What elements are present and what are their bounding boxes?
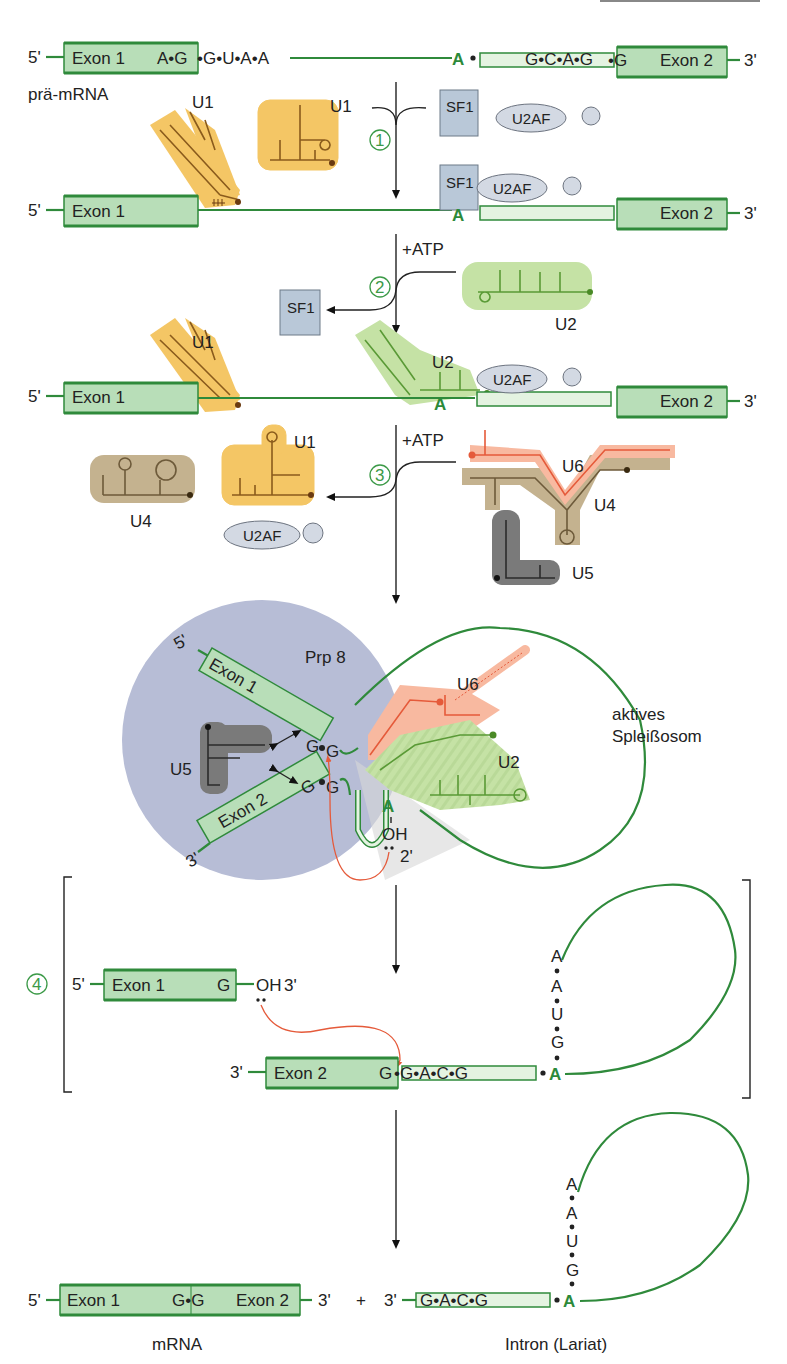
donor-seq-exon: A•G	[157, 49, 188, 68]
tri-snrnp-u4-u6-u5	[462, 430, 675, 585]
svg-text:U4: U4	[130, 512, 152, 531]
acceptor-junction: •G	[608, 51, 627, 70]
svg-text:Exon 2: Exon 2	[274, 1064, 327, 1083]
step-4: 4 5' Exon 1 G OH 3' 3' Exon 2 G •G•A•C•G…	[27, 877, 750, 1098]
svg-text:Exon 2: Exon 2	[236, 1291, 289, 1310]
svg-text:Exon 1: Exon 1	[72, 202, 125, 221]
svg-text:5': 5'	[72, 975, 85, 994]
step-3: +ATP 3 U4 U1 U2AF	[90, 425, 675, 600]
svg-text:U2: U2	[555, 315, 577, 334]
left-bracket	[64, 877, 72, 1092]
svg-text:G: G	[551, 1033, 564, 1052]
svg-text:U2: U2	[432, 353, 454, 372]
svg-text:A: A	[549, 1065, 561, 1084]
svg-text:U4: U4	[594, 496, 616, 515]
final-products: 5' Exon 1 G•G Exon 2 3' + 3' G•A•C•G A A…	[28, 1110, 748, 1354]
svg-text:1: 1	[375, 131, 384, 150]
svg-text:aktives: aktives	[612, 705, 665, 724]
u4-snrna-released	[90, 455, 195, 503]
svg-text:2': 2'	[400, 847, 413, 866]
svg-text:SF1: SF1	[446, 98, 474, 115]
active-spliceosome: Prp 8 5' Exon 1 G G Exon 2 3' G G U5	[122, 600, 702, 880]
nucleophilic-attack-arrow	[261, 1005, 400, 1065]
exon-1-label: Exon 1	[72, 49, 125, 68]
svg-text:G•G: G•G	[172, 1291, 204, 1310]
svg-text:U: U	[551, 1005, 563, 1024]
svg-text:A: A	[452, 206, 464, 225]
svg-text:A: A	[551, 947, 563, 966]
svg-text:U1: U1	[294, 433, 316, 452]
svg-text:A: A	[551, 977, 563, 996]
intron-lariat-loop	[562, 885, 735, 1074]
svg-text:Exon 1: Exon 1	[67, 1291, 120, 1310]
svg-text:U5: U5	[170, 760, 192, 779]
svg-text:OH: OH	[256, 976, 282, 995]
svg-text:G: G	[326, 778, 339, 797]
exon-2-label: Exon 2	[660, 51, 713, 70]
complex-e-row: 5' Exon 1 SF1 A U2AF Exon 2 3'	[28, 165, 757, 229]
svg-text:Prp 8: Prp 8	[305, 648, 346, 667]
svg-text:Exon 1: Exon 1	[112, 976, 165, 995]
svg-text:Spleißosom: Spleißosom	[612, 727, 702, 746]
svg-text:U2: U2	[498, 753, 520, 772]
svg-text:5': 5'	[28, 387, 41, 406]
svg-text:G: G	[217, 976, 230, 995]
svg-text:U2AF: U2AF	[512, 110, 550, 127]
svg-text:A: A	[566, 1175, 578, 1194]
svg-text:U: U	[566, 1232, 578, 1251]
mrna-label: mRNA	[152, 1335, 203, 1354]
svg-text:A: A	[566, 1204, 578, 1223]
svg-text:U2AF: U2AF	[493, 371, 531, 388]
pre-mrna-label: prä-mRNA	[28, 85, 109, 104]
u2-snrnp-bound	[355, 320, 490, 405]
svg-text:Exon 2: Exon 2	[660, 392, 713, 411]
svg-text:+ATP: +ATP	[402, 431, 444, 450]
u1-snrnp-free	[258, 100, 338, 170]
svg-text:G: G	[379, 1064, 392, 1083]
svg-text:5': 5'	[28, 201, 41, 220]
svg-text:Exon 2: Exon 2	[660, 204, 713, 223]
branch-point-a: A	[452, 50, 464, 69]
donor-seq-intron: •G•U•A•A	[197, 49, 270, 68]
svg-text:5': 5'	[28, 1291, 41, 1310]
svg-text:+ATP: +ATP	[402, 240, 444, 259]
svg-text:G: G	[566, 1261, 579, 1280]
complex-a-row: U1 U2 5' Exon 1 A U2AF Exon 2 3'	[28, 318, 757, 417]
u1-snrnp-bound	[150, 108, 241, 208]
u1-bound-label: U1	[192, 93, 214, 112]
u2-snrnp-free	[462, 262, 593, 310]
lariat-sequence: A A U G	[566, 1175, 579, 1286]
svg-text:3': 3'	[744, 392, 757, 411]
acceptor-seq: G•C•A•G	[525, 50, 593, 69]
svg-text:A: A	[563, 1292, 575, 1311]
svg-text:U5: U5	[572, 564, 594, 583]
three-prime-label: 3'	[744, 51, 757, 70]
svg-text:U6: U6	[457, 675, 479, 694]
svg-text:U6: U6	[562, 457, 584, 476]
step-2: +ATP 2 SF1 U2	[280, 234, 593, 335]
svg-text:4: 4	[32, 975, 41, 994]
svg-text:+: +	[356, 1291, 366, 1310]
five-prime-label: 5'	[28, 48, 41, 67]
svg-text:3': 3'	[384, 1291, 397, 1310]
svg-text:A: A	[434, 395, 446, 414]
svg-text:3': 3'	[230, 1063, 243, 1082]
lariat-sequence: A A U G	[551, 947, 564, 1060]
svg-text:2: 2	[375, 278, 384, 297]
svg-text:A: A	[382, 797, 394, 816]
svg-text:OH: OH	[382, 825, 408, 844]
svg-text:Exon 1: Exon 1	[72, 388, 125, 407]
splicing-diagram: 5' Exon 1 A•G •G•U•A•A A G•C•A•G •G Exon…	[0, 0, 787, 1364]
svg-text:SF1: SF1	[287, 299, 315, 316]
right-bracket	[742, 880, 750, 1098]
svg-text:3': 3'	[744, 204, 757, 223]
svg-text:•G•A•C•G: •G•A•C•G	[394, 1064, 468, 1083]
svg-text:U2AF: U2AF	[493, 180, 531, 197]
svg-text:3': 3'	[318, 1291, 331, 1310]
pre-mrna-row: 5' Exon 1 A•G •G•U•A•A A G•C•A•G •G Exon…	[28, 43, 757, 104]
svg-text:3: 3	[375, 466, 384, 485]
svg-text:3': 3'	[284, 976, 297, 995]
intron-lariat-loop	[578, 1113, 748, 1301]
svg-text:U2AF: U2AF	[243, 527, 281, 544]
u1-free-label: U1	[330, 97, 352, 116]
